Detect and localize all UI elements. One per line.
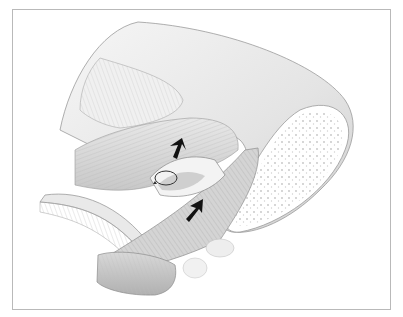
anatomical-illustration [0,0,403,317]
